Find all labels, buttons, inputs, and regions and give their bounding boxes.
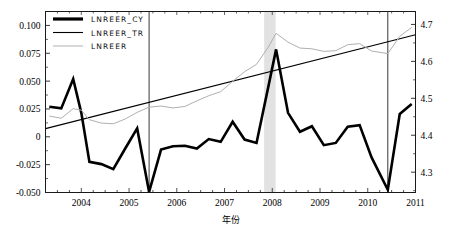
y-tick-label-right: 4.6 [421, 57, 433, 67]
x-tick-label: 2011 [406, 198, 425, 208]
y-tick-label-left: 0.075 [19, 49, 41, 59]
y-tick-label-left: -0.025 [16, 160, 41, 170]
chart-container: 20042005200620072008200920102011年份0.1000… [0, 0, 454, 238]
x-tick-label: 2006 [167, 198, 186, 208]
legend-label-lnreer_cy: LNREER_CY [91, 15, 144, 24]
x-tick-label: 2008 [263, 198, 282, 208]
y-tick-label-left: 0.100 [19, 21, 41, 31]
series-line-lnreer_cy [49, 49, 411, 192]
x-tick-label: 2004 [72, 198, 91, 208]
y-tick-label-left: 0 [36, 132, 41, 142]
x-tick-label: 2010 [358, 198, 377, 208]
y-tick-label-right: 4.4 [421, 131, 433, 141]
x-tick-label: 2007 [215, 198, 234, 208]
y-tick-label-left: 0.050 [19, 77, 41, 87]
y-tick-label-left: -0.050 [16, 188, 41, 198]
y-tick-label-right: 4.3 [421, 168, 433, 178]
legend-label-lnreer_tr: LNREER_TR [91, 29, 144, 38]
x-tick-label: 2005 [120, 198, 139, 208]
x-tick-label: 2009 [311, 198, 330, 208]
y-tick-label-right: 4.7 [421, 20, 433, 30]
y-tick-label-left: 0.025 [19, 104, 41, 114]
legend-label-lnreer: LNREER [91, 42, 127, 51]
series-group [46, 27, 416, 192]
x-axis-title: 年份 [222, 214, 240, 225]
line-chart: 20042005200620072008200920102011年份0.1000… [0, 0, 454, 238]
y-tick-label-right: 4.5 [421, 94, 433, 104]
legend: LNREER_CYLNREER_TRLNREER [53, 15, 144, 51]
